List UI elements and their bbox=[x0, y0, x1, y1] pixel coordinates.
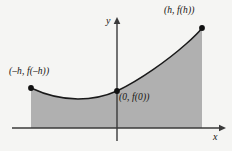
x-axis-label: x bbox=[213, 131, 217, 142]
point-label-left: (–h, f(–h)) bbox=[9, 66, 49, 76]
point-label-mid: (0, f(0)) bbox=[119, 92, 149, 102]
point-label-right: (h, f(h)) bbox=[164, 5, 194, 15]
y-axis-label: y bbox=[106, 15, 110, 26]
point-left-marker bbox=[28, 85, 34, 91]
x-axis-arrowhead bbox=[219, 125, 226, 132]
figure-container: (–h, f(–h)) (0, f(0)) (h, f(h)) y x bbox=[0, 0, 232, 151]
y-axis-arrowhead bbox=[114, 17, 121, 24]
point-right-marker bbox=[199, 25, 205, 31]
